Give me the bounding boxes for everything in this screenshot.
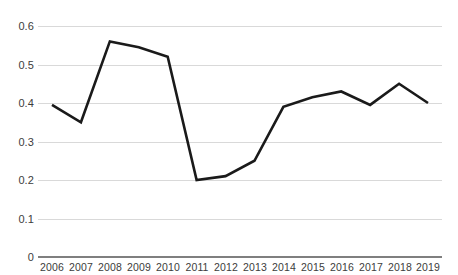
series-layer bbox=[0, 0, 458, 275]
series-line-1 bbox=[52, 41, 428, 180]
line-chart: 0.6 0.5 0.4 0.3 0.2 0.1 0 2006 2007 2008… bbox=[0, 0, 458, 275]
